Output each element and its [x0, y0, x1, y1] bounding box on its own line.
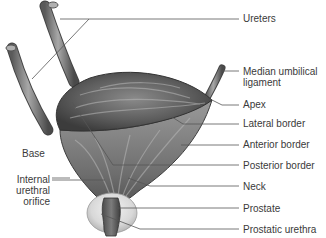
label-internal-urethral-orifice: Internal urethral orifice	[12, 174, 50, 207]
label-median-umbilical-ligament: Median umbilical ligament	[243, 66, 317, 88]
label-median-umbilical-line2: ligament	[243, 77, 317, 88]
label-posterior-border: Posterior border	[243, 160, 315, 171]
label-internal-line3: orifice	[12, 196, 50, 207]
label-base: Base	[22, 148, 45, 159]
label-internal-line2: urethral	[12, 185, 50, 196]
label-anterior-border: Anterior border	[243, 139, 310, 150]
label-neck: Neck	[243, 181, 266, 192]
label-ureters: Ureters	[243, 13, 276, 24]
label-median-umbilical-line1: Median umbilical	[243, 66, 317, 77]
label-apex: Apex	[243, 99, 266, 110]
label-prostate: Prostate	[243, 203, 280, 214]
median-umbilical-ligament-shape	[206, 68, 222, 100]
prostatic-urethra-shape	[102, 198, 120, 236]
label-internal-line1: Internal	[12, 174, 50, 185]
label-lateral-border: Lateral border	[243, 118, 305, 129]
label-prostatic-urethra: Prostatic urethra	[243, 224, 316, 235]
